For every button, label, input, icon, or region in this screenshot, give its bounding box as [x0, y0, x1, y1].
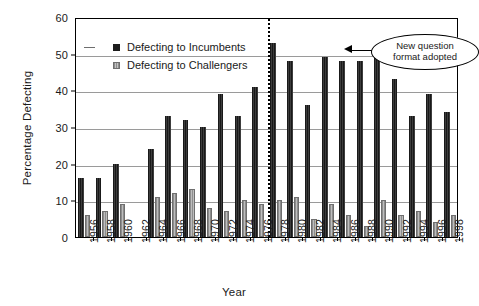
bar-incumbents-1992 [392, 79, 398, 237]
y-tick-label-50: 50 [28, 49, 68, 61]
bar-incumbents-1996 [426, 94, 432, 237]
callout-new-question-format: New question format adopted [371, 34, 479, 70]
x-tick-label-1992: 1992 [401, 219, 413, 243]
x-tick-label-1982: 1982 [314, 219, 326, 243]
y-tick-mark-50 [71, 54, 75, 55]
callout-line-2: format adopted [393, 52, 457, 63]
x-tick-label-1960: 1960 [122, 219, 134, 243]
x-tick-label-1988: 1988 [366, 219, 378, 243]
x-tick-label-1980: 1980 [296, 219, 308, 243]
legend-label-incumbents: Defecting to Incumbents [127, 41, 246, 53]
x-tick-label-1990: 1990 [383, 219, 395, 243]
x-tick-label-1972: 1972 [227, 219, 239, 243]
legend-swatch-challengers-icon [113, 62, 120, 69]
y-tick-label-0: 0 [28, 232, 68, 244]
y-tick-mark-30 [71, 128, 75, 129]
x-tick-label-1998: 1998 [453, 219, 465, 243]
legend-item-challengers: Defecting to Challengers [113, 59, 247, 71]
bar-incumbents-1986 [339, 61, 345, 237]
bar-group-1982 [302, 19, 319, 237]
x-tick-label-1974: 1974 [244, 219, 256, 243]
x-tick-label-1962: 1962 [140, 219, 152, 243]
bar-group-1980 [285, 19, 302, 237]
x-axis-title: Year [0, 286, 468, 298]
bar-group-1978 [268, 19, 285, 237]
y-tick-label-40: 40 [28, 85, 68, 97]
x-tick-label-1958: 1958 [105, 219, 117, 243]
y-tick-label-30: 30 [28, 122, 68, 134]
bar-incumbents-1988 [357, 61, 363, 237]
bar-incumbents-1980 [287, 61, 293, 237]
bar-incumbents-1990 [374, 57, 380, 237]
x-tick-label-1994: 1994 [418, 219, 430, 243]
y-tick-mark-20 [71, 164, 75, 165]
legend-dash-mark-icon [84, 47, 95, 48]
y-tick-label-60: 60 [28, 12, 68, 24]
x-tick-label-1956: 1956 [88, 219, 100, 243]
legend-item-incumbents: Defecting to Incumbents [113, 41, 247, 53]
x-tick-label-1966: 1966 [175, 219, 187, 243]
x-tick-label-1968: 1968 [192, 219, 204, 243]
legend-label-challengers: Defecting to Challengers [127, 59, 247, 71]
bar-group-1984 [320, 19, 337, 237]
y-tick-label-10: 10 [28, 195, 68, 207]
x-tick-label-1978: 1978 [279, 219, 291, 243]
bar-group-1988 [355, 19, 372, 237]
new-question-format-divider-line [268, 19, 270, 237]
bar-incumbents-1956 [78, 178, 84, 237]
y-tick-mark-10 [71, 201, 75, 202]
x-tick-label-1970: 1970 [209, 219, 221, 243]
plot-area: Defecting to Incumbents Defecting to Cha… [75, 18, 458, 238]
bar-incumbents-1976 [252, 87, 258, 237]
x-tick-label-1964: 1964 [157, 219, 169, 243]
bar-group-1958 [93, 19, 110, 237]
x-tick-label-1996: 1996 [436, 219, 448, 243]
y-tick-mark-40 [71, 91, 75, 92]
x-tick-label-1986: 1986 [349, 219, 361, 243]
y-tick-label-20: 20 [28, 159, 68, 171]
bar-incumbents-1982 [305, 105, 311, 237]
legend: Defecting to Incumbents Defecting to Cha… [113, 41, 247, 77]
bar-incumbents-1972 [218, 94, 224, 237]
legend-swatch-incumbents-icon [113, 44, 120, 51]
x-tick-label-1976: 1976 [262, 219, 274, 243]
bar-incumbents-1984 [322, 57, 328, 237]
bar-group-1956 [76, 19, 93, 237]
bar-incumbents-1978 [270, 43, 276, 237]
callout-arrow-icon [344, 45, 352, 53]
bar-group-1976 [250, 19, 267, 237]
x-tick-label-1984: 1984 [331, 219, 343, 243]
